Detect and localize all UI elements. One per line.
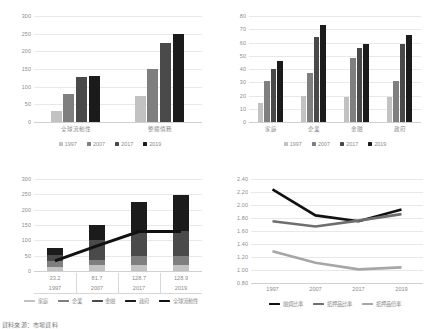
legend-item-抵押品倍率: 抵押品倍率 <box>362 300 401 308</box>
y-axis-tick-label: 200 <box>22 207 34 213</box>
bar-1997-整體債務 <box>135 96 146 123</box>
bar-2017-企業 <box>314 37 320 122</box>
chart-bottom-right-plot: 0.801.001.201.401.601.802.002.202.401997… <box>251 179 423 283</box>
legend-item-金融: 金融 <box>92 297 116 305</box>
axis-cell-1997: 33.21997 <box>34 275 76 291</box>
axis-cell-divider <box>76 273 77 293</box>
y-axis-tick-label: 50 <box>25 253 34 259</box>
legend-swatch-2019 <box>368 142 372 146</box>
bar-2007-家庭 <box>264 81 270 122</box>
legend-item-融資比率: 融資比率 <box>269 300 303 308</box>
legend-item-2019: 2019 <box>368 141 386 147</box>
legend-swatch-1997 <box>284 142 288 146</box>
legend-swatch-金融 <box>92 300 103 302</box>
chart-top-right-panel: 01020304050607080家庭企業金融政府 19972007201720… <box>219 0 439 165</box>
x-axis-label-家庭: 家庭 <box>265 125 277 133</box>
legend-item-2017: 2017 <box>340 141 358 147</box>
x-axis-label-2019: 2019 <box>160 285 202 291</box>
bar-2019-企業 <box>320 25 326 122</box>
footnote: 資料來源：市場資料 <box>2 320 58 329</box>
x-axis-label-2017: 2017 <box>352 286 364 292</box>
axis-cell-2019: 128.92019 <box>160 275 202 291</box>
x-axis-label-政府: 政府 <box>394 125 406 133</box>
legend-label-金融: 金融 <box>105 297 115 305</box>
axis-line-x <box>249 122 421 123</box>
legend-swatch-2017 <box>115 142 119 146</box>
y-axis-tick-label: 60 <box>240 40 249 46</box>
bar-2007-全球流動性 <box>63 94 74 122</box>
y-axis-tick-label: 1.40 <box>237 241 251 247</box>
y-axis-tick-label: 2.40 <box>237 176 251 182</box>
legend-item-2007: 2007 <box>312 141 330 147</box>
legend-item-家庭: 家庭 <box>24 297 48 305</box>
chart-bottom-left-plot: 050100150200250300 <box>34 179 202 271</box>
y-axis-tick-label: 150 <box>22 66 34 72</box>
legend-swatch-全球流動性 <box>159 300 170 302</box>
y-axis-tick-label: 150 <box>22 222 34 228</box>
y-axis-tick-label: 250 <box>22 31 34 37</box>
legend-label-融資比率: 融資比率 <box>283 300 303 308</box>
data-label-1997: 33.2 <box>34 275 76 281</box>
legend-label-2017: 2017 <box>121 141 133 147</box>
axis-cell-divider <box>118 273 119 293</box>
y-axis-tick-label: 1.20 <box>237 254 251 260</box>
legend-item-2017: 2017 <box>115 141 133 147</box>
data-label-2007: 81.7 <box>76 275 118 281</box>
chart-bottom-right-panel: 0.801.001.201.401.601.802.002.202.401997… <box>219 165 439 327</box>
bar-2007-政府 <box>393 81 399 122</box>
x-axis-label-1997: 1997 <box>266 286 278 292</box>
y-axis-tick-label: 50 <box>240 53 249 59</box>
bar-2007-整體債務 <box>147 69 158 122</box>
legend-label-1997: 1997 <box>290 141 302 147</box>
legend-swatch-融資比率 <box>269 303 280 305</box>
bar-2019-家庭 <box>277 61 283 122</box>
x-axis-label-2017: 2017 <box>118 285 160 291</box>
axis-line-x <box>34 122 202 123</box>
y-axis-tick-label: 1.60 <box>237 228 251 234</box>
legend-label-2019: 2019 <box>149 141 161 147</box>
axis-table-bottom-rule <box>34 293 202 294</box>
x-axis-label-2007: 2007 <box>76 285 118 291</box>
gridline <box>249 16 421 17</box>
legend-label-抵押品比率: 抵押品比率 <box>327 300 352 308</box>
legend-label-全球流動性: 全球流動性 <box>173 297 198 305</box>
legend-item-2019: 2019 <box>143 141 161 147</box>
chart-top-left-legend: 1997200720172019 <box>20 140 200 148</box>
y-axis-tick-label: 200 <box>22 48 34 54</box>
bar-1997-政府 <box>387 97 393 122</box>
legend-label-抵押品倍率: 抵押品倍率 <box>376 300 401 308</box>
gridline <box>249 56 421 57</box>
chart-bottom-left-legend: 家庭企業金融政府全球流動性 <box>16 296 206 306</box>
gridline <box>249 29 421 30</box>
y-axis-tick-label: 250 <box>22 191 34 197</box>
chart-top-right-legend: 1997200720172019 <box>245 140 425 148</box>
legend-label-企業: 企業 <box>72 297 82 305</box>
line-抵押品倍率 <box>273 251 402 269</box>
bar-1997-金融 <box>344 97 350 122</box>
y-axis-tick-label: 80 <box>240 13 249 19</box>
legend-label-1997: 1997 <box>65 141 77 147</box>
legend-item-企業: 企業 <box>58 297 82 305</box>
y-axis-tick-label: 100 <box>22 237 34 243</box>
axis-cell-2007: 81.72007 <box>76 275 118 291</box>
line-抵押品比率 <box>273 214 402 226</box>
chart-bottom-left-axis-table: 33.2199781.72007128.72017128.92019 <box>34 271 202 297</box>
legend-label-2007: 2007 <box>93 141 105 147</box>
chart-bottom-left-panel: 050100150200250300 33.2199781.72007128.7… <box>0 165 219 327</box>
legend-label-2019: 2019 <box>374 141 386 147</box>
bar-1997-家庭 <box>258 103 264 122</box>
chart-top-right-plot: 01020304050607080家庭企業金融政府 <box>249 16 421 122</box>
bar-2007-企業 <box>307 73 313 122</box>
legend-swatch-2007 <box>312 142 316 146</box>
legend-label-政府: 政府 <box>139 297 149 305</box>
bar-2007-金融 <box>350 58 356 122</box>
data-label-2017: 128.7 <box>118 275 160 281</box>
y-axis-tick-label: 1.80 <box>237 215 251 221</box>
y-axis-tick-label: 0.80 <box>237 280 251 286</box>
y-axis-tick-label: 2.00 <box>237 202 251 208</box>
legend-item-1997: 1997 <box>59 141 77 147</box>
legend-item-政府: 政府 <box>125 297 149 305</box>
bar-2017-家庭 <box>271 69 277 122</box>
x-axis-label-2019: 2019 <box>395 286 407 292</box>
legend-swatch-2007 <box>87 142 91 146</box>
